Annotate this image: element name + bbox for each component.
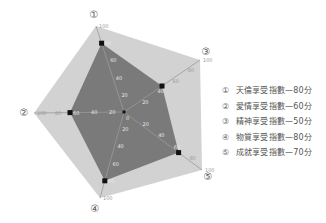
data-point-1 (99, 41, 104, 46)
tick-label: 100 (37, 110, 47, 116)
tick-label: 100 (103, 195, 113, 201)
tick-label: 80 (55, 110, 61, 116)
axis-marker-3: ③ (202, 46, 211, 57)
tick-label: 100 (203, 57, 213, 63)
legend-item-3: ③ 精神享受指數—50分 (222, 114, 326, 130)
tick-label: 20 (109, 109, 115, 115)
tick-label: 20 (142, 99, 148, 105)
tick-label: 40 (158, 132, 164, 138)
tick-label: 20 (122, 126, 128, 132)
center-point (123, 111, 126, 114)
data-point-5 (176, 150, 181, 155)
tick-label: 100 (99, 23, 109, 29)
tick-label: 80 (108, 178, 114, 184)
legend-text: 精神享受指數—50分 (236, 117, 312, 126)
tick-label: 60 (173, 78, 179, 84)
data-point-2 (68, 110, 73, 115)
tick-label: 40 (91, 109, 97, 115)
data-point-3 (160, 84, 165, 89)
legend-item-5: ⑤ 成就享受指數—70分 (222, 145, 326, 161)
tick-label: 80 (188, 67, 194, 73)
axis-marker-4: ④ (91, 203, 100, 214)
legend-item-1: ① 天倫享受指數—80分 (222, 83, 326, 99)
data-point-4 (102, 178, 107, 183)
tick-label: 40 (157, 88, 163, 94)
legend-item-4: ④ 物質享受指數—80分 (222, 130, 326, 146)
axis-marker-5: ⑤ (204, 171, 213, 182)
legend-item-2: ② 愛情享受指數—60分 (222, 99, 326, 115)
tick-label: 60 (113, 161, 119, 167)
legend-text: 成就享受指數—70分 (236, 148, 312, 157)
legend-marker: ① (222, 83, 233, 99)
tick-label: 40 (117, 143, 123, 149)
tick-label: 60 (110, 57, 116, 63)
legend-marker: ③ (222, 114, 233, 130)
tick-label: 60 (174, 144, 180, 150)
axis-marker-1: ① (90, 9, 99, 20)
tick-label: 80 (189, 155, 195, 161)
tick-label: 80 (105, 40, 111, 46)
tick-label: 20 (121, 92, 127, 98)
legend: ① 天倫享受指數—80分 ② 愛情享受指數—60分 ③ 精神享受指數—50分 ④… (222, 83, 326, 161)
legend-marker: ⑤ (222, 145, 233, 161)
radar-chart: 2040608010020406080100204060801002040608… (0, 0, 220, 223)
tick-label: 40 (116, 75, 122, 81)
tick-label-zero: 0 (126, 115, 129, 121)
legend-marker: ② (222, 99, 233, 115)
tick-label: 60 (73, 110, 79, 116)
legend-text: 天倫享受指數—80分 (236, 86, 312, 95)
legend-marker: ④ (222, 130, 233, 146)
legend-text: 物質享受指數—80分 (236, 133, 312, 142)
legend-text: 愛情享受指數—60分 (236, 102, 312, 111)
tick-label: 20 (143, 121, 149, 127)
axis-marker-2: ② (20, 107, 29, 118)
